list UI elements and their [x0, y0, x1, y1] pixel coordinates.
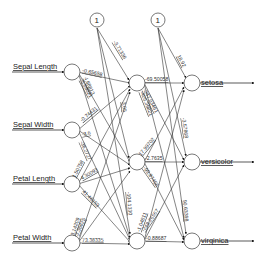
input-node-petal-length	[64, 176, 80, 192]
neural-network-diagram: 1 1 Sepal Length Sepal Width Petal Lengt…	[0, 0, 266, 271]
input-node-sepal-width	[64, 122, 80, 138]
hidden-node-3	[129, 233, 145, 249]
weight-label: 90.63398	[182, 200, 190, 222]
input-label-sepal-width: Sepal Width	[13, 120, 53, 129]
hidden-node-1	[129, 75, 145, 91]
output-node-virginica	[184, 233, 200, 249]
output-label-versicolor: versicolor	[201, 157, 234, 166]
weight-label: -3.57868	[181, 117, 190, 138]
weight-label: -3.6	[81, 130, 91, 137]
input-label-petal-width: Petal Width	[13, 233, 51, 242]
weight-label: -99.87456	[142, 165, 160, 188]
input-label-sepal-length: Sepal Length	[13, 62, 57, 71]
bias-label-output: 1	[156, 16, 161, 25]
input-node-sepal-length	[64, 64, 80, 80]
bias-label-hidden: 1	[95, 16, 100, 25]
weight-label: -0.74431	[79, 105, 99, 123]
output-node-versicolor	[184, 154, 200, 170]
input-arrows	[12, 72, 64, 243]
weight-label: -36.2727	[79, 140, 93, 161]
weight-label: 73.38335	[82, 237, 104, 243]
weight-label: -0.88687	[146, 235, 167, 241]
input-node-petal-width	[64, 235, 80, 251]
weight-label: -69.50058	[145, 76, 168, 82]
output-node-setosa	[184, 75, 200, 91]
weight-label: -104.1330	[126, 192, 134, 216]
weight-label: -0.65658	[82, 67, 103, 77]
weight-label: -2.7635	[145, 155, 163, 161]
output-label-virginica: virginica	[201, 236, 229, 245]
weight-label: 17.99702	[137, 136, 156, 157]
weight-label: 18.92	[176, 54, 187, 68]
weight-label: 3.05	[121, 101, 128, 112]
input-label-petal-length: Petal Length	[13, 174, 55, 183]
output-label-setosa: setosa	[201, 78, 224, 87]
